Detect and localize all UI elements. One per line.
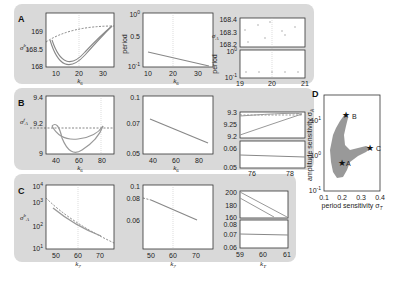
svg-text:50: 50 — [147, 252, 155, 259]
svg-text:101: 101 — [32, 243, 43, 252]
svg-text:10: 10 — [52, 70, 60, 77]
svg-text:0.08: 0.08 — [223, 221, 237, 228]
y-axis-label-d: amplitude sensitivity σ — [306, 111, 314, 181]
svg-text:19: 19 — [236, 80, 244, 87]
svg-text:0.2: 0.2 — [337, 194, 347, 201]
svg-text:40: 40 — [52, 157, 60, 164]
svg-text:0.1: 0.1 — [319, 194, 329, 201]
svg-text:20: 20 — [169, 70, 177, 77]
svg-text:9.2: 9.2 — [227, 133, 237, 140]
svg-text:σfA: σfA — [20, 117, 29, 126]
svg-text:kT: kT — [260, 260, 267, 269]
panel-b-zoom-plot: 9.3 9.25 9.2 0.06 0.05 76 78 — [223, 109, 305, 177]
panel-label-c: C — [18, 186, 25, 196]
svg-text:k6: k6 — [77, 77, 83, 86]
svg-text:160: 160 — [225, 214, 237, 221]
svg-text:0.07: 0.07 — [223, 231, 237, 238]
svg-text:★: ★ — [342, 110, 350, 120]
panel-c-amplitude-plot: 104 103 102 101 σbA 50 60 70 k7 — [20, 181, 114, 269]
svg-text:61: 61 — [283, 251, 291, 258]
svg-text:100: 100 — [226, 46, 237, 55]
svg-text:21: 21 — [301, 80, 309, 87]
annotation-a: A — [346, 160, 351, 167]
panel-d-scatter-plot: ★ ★ ★ B C A 101 100 10-1 amplitude sensi… — [306, 95, 385, 211]
svg-text:168.3: 168.3 — [219, 29, 237, 36]
svg-text:103: 103 — [32, 197, 43, 206]
svg-text:169: 169 — [31, 28, 43, 35]
svg-text:30: 30 — [194, 70, 202, 77]
svg-text:k6: k6 — [173, 77, 179, 86]
svg-text:168: 168 — [31, 63, 43, 70]
svg-text:10-1: 10-1 — [128, 61, 140, 70]
svg-text:0.1: 0.1 — [130, 183, 140, 190]
svg-text:104: 104 — [32, 181, 43, 190]
svg-text:70: 70 — [192, 252, 200, 259]
svg-text:20: 20 — [268, 80, 276, 87]
svg-text:10: 10 — [144, 70, 152, 77]
svg-text:k7: k7 — [75, 260, 81, 269]
panel-label-d: D — [312, 89, 319, 99]
annotation-c: C — [376, 145, 381, 152]
svg-text:40: 40 — [149, 157, 157, 164]
svg-text:0.05: 0.05 — [223, 164, 237, 171]
figure-canvas: A 169 168.5 168 σbA 10 20 30 k6 100 0.5 … — [0, 0, 405, 292]
panel-c-zoom-plot: 200 180 160 0.08 0.07 0.06 59 60 61 kT — [223, 189, 291, 269]
panel-a-amplitude-plot: 169 168.5 168 σbA 10 20 30 k6 — [20, 13, 114, 86]
svg-text:50: 50 — [52, 252, 60, 259]
svg-text:80: 80 — [98, 157, 106, 164]
svg-text:σbA: σbA — [20, 43, 30, 52]
svg-text:100: 100 — [129, 9, 140, 18]
panel-label-a: A — [18, 14, 25, 24]
panel-a-period-plot: 100 0.5 10-1 period 10 20 30 k6 — [121, 9, 213, 86]
svg-text:60: 60 — [172, 157, 180, 164]
svg-text:★: ★ — [366, 143, 374, 153]
panel-b-amplitude-plot: 9.4 9.2 9 σfA 40 60 80 k6 — [20, 94, 114, 173]
period-axis-label-a-zoom: period — [211, 54, 219, 74]
svg-text:0.06: 0.06 — [126, 217, 140, 224]
svg-text:9.3: 9.3 — [227, 109, 237, 116]
svg-text:80: 80 — [195, 157, 203, 164]
svg-text:0.05: 0.05 — [126, 150, 140, 157]
svg-text:60: 60 — [74, 252, 82, 259]
svg-text:70: 70 — [96, 252, 104, 259]
svg-text:σA: σA — [212, 32, 219, 41]
svg-text:★: ★ — [338, 158, 346, 168]
svg-text:180: 180 — [225, 202, 237, 209]
svg-text:168.4: 168.4 — [219, 16, 237, 23]
panel-c-period-plot: 0.1 0.08 0.06 50 60 70 k7 — [126, 183, 213, 269]
panel-b-period-plot: 0.1 0.07 0.05 40 60 80 k6 — [126, 94, 213, 173]
svg-text:9: 9 — [39, 150, 43, 157]
svg-text:σbA: σbA — [20, 213, 30, 222]
x-axis-label-d: period sensitivity σ — [322, 202, 381, 210]
svg-text:0.4: 0.4 — [375, 194, 385, 201]
svg-text:0.5: 0.5 — [130, 33, 140, 40]
svg-text:102: 102 — [32, 221, 43, 230]
svg-text:60: 60 — [169, 252, 177, 259]
svg-text:0.06: 0.06 — [223, 145, 237, 152]
svg-text:k6: k6 — [173, 164, 179, 173]
svg-text:59: 59 — [236, 251, 244, 258]
svg-text:k6: k6 — [77, 164, 83, 173]
svg-text:period sensitivity σT: period sensitivity σT — [322, 202, 384, 211]
svg-text:60: 60 — [75, 157, 83, 164]
svg-text:200: 200 — [225, 189, 237, 196]
svg-text:9.25: 9.25 — [223, 121, 237, 128]
svg-text:60: 60 — [259, 251, 267, 258]
svg-text:0.06: 0.06 — [223, 244, 237, 251]
svg-text:0.08: 0.08 — [126, 195, 140, 202]
svg-text:76: 76 — [248, 170, 256, 177]
svg-text:10-1: 10-1 — [309, 185, 321, 194]
svg-text:0.07: 0.07 — [126, 120, 140, 127]
panel-label-b: B — [18, 98, 25, 108]
svg-text:30: 30 — [99, 70, 107, 77]
svg-text:20: 20 — [75, 70, 83, 77]
period-axis-label: period — [121, 34, 129, 54]
annotation-b: B — [352, 113, 357, 120]
svg-text:78: 78 — [286, 170, 294, 177]
svg-text:0.1: 0.1 — [130, 94, 140, 101]
svg-text:9.2: 9.2 — [33, 120, 43, 127]
svg-text:9.4: 9.4 — [33, 94, 43, 101]
svg-text:0.3: 0.3 — [356, 194, 366, 201]
panel-a-zoom-plot: 168.4 168.3 168.2 100 10-1 σA period 19 … — [211, 16, 309, 87]
svg-text:k7: k7 — [170, 260, 176, 269]
